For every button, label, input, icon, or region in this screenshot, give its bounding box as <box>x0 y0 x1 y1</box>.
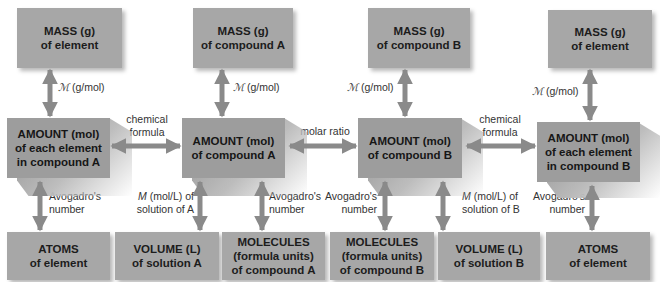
arrows-layer <box>0 0 660 282</box>
